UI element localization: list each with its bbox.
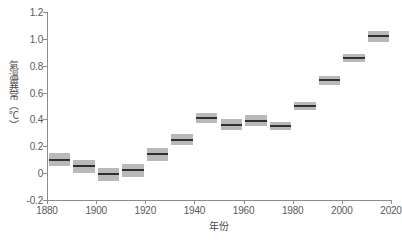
y-tick-label: 1.2	[30, 7, 43, 18]
median-line	[221, 124, 243, 126]
y-tick-mark	[43, 173, 47, 174]
y-tick-mark	[43, 66, 47, 67]
x-tick-mark	[47, 200, 48, 204]
x-tick-label: 2000	[331, 205, 352, 216]
median-line	[343, 57, 365, 59]
x-tick-label: 1920	[135, 205, 156, 216]
median-line	[196, 117, 218, 119]
x-tick-label: 1940	[184, 205, 205, 216]
x-tick-mark	[194, 200, 195, 204]
plot-area: -0.200.20.40.60.81.01.2 1880190019201940…	[47, 12, 391, 200]
x-tick-mark	[391, 200, 392, 204]
median-line	[319, 79, 341, 81]
median-line	[122, 169, 144, 171]
y-tick-label: 1.0	[30, 33, 43, 44]
y-tick-mark	[43, 146, 47, 147]
x-tick-label: 1900	[85, 205, 106, 216]
x-axis-title: 年份	[47, 218, 391, 233]
x-tick-label: 1980	[282, 205, 303, 216]
x-tick-mark	[145, 200, 146, 204]
median-line	[49, 159, 71, 161]
median-line	[270, 125, 292, 127]
y-tick-mark	[43, 12, 47, 13]
median-line	[73, 165, 95, 167]
x-tick-mark	[293, 200, 294, 204]
y-tick-label: 0.2	[30, 141, 43, 152]
median-line	[147, 153, 169, 155]
x-tick-label: 1880	[36, 205, 57, 216]
median-line	[245, 120, 267, 122]
median-line	[171, 139, 193, 141]
y-tick-label: 0.6	[30, 87, 43, 98]
y-tick-label: 0.8	[30, 60, 43, 71]
y-tick-mark	[43, 93, 47, 94]
y-tick-label: 0.4	[30, 114, 43, 125]
x-tick-mark	[342, 200, 343, 204]
median-line	[294, 105, 316, 107]
x-tick-label: 1960	[233, 205, 254, 216]
x-tick-mark	[244, 200, 245, 204]
x-tick-mark	[96, 200, 97, 204]
y-axis-title: 氣溫異常（℃）	[4, 60, 18, 130]
y-tick-mark	[43, 119, 47, 120]
y-tick-label: -0.2	[27, 195, 43, 206]
y-tick-mark	[43, 39, 47, 40]
x-tick-label: 2020	[380, 205, 401, 216]
x-axis-line	[47, 200, 391, 201]
median-line	[98, 173, 120, 175]
y-tick-label: 0	[38, 168, 43, 179]
median-line	[368, 35, 390, 37]
